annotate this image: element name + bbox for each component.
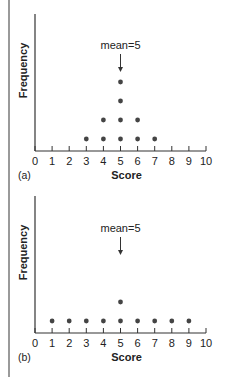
x-tick-label: 1: [49, 337, 55, 349]
data-dot: [135, 137, 140, 142]
mean-annotation: mean=5: [100, 222, 140, 234]
x-tick-label: 2: [66, 337, 72, 349]
x-axis-label: Score: [111, 169, 142, 181]
data-dot: [101, 319, 106, 324]
x-tick-label: 3: [83, 337, 89, 349]
x-tick-label: 8: [169, 337, 175, 349]
panel-label: (a): [18, 169, 31, 181]
data-dot: [152, 319, 157, 324]
data-dot: [67, 319, 72, 324]
y-axis-label: Frequency: [17, 224, 29, 281]
x-tick-label: 2: [66, 155, 72, 167]
data-dot: [84, 319, 89, 324]
data-dot: [50, 319, 55, 324]
data-dot: [169, 319, 174, 324]
x-tick-label: 7: [152, 155, 158, 167]
x-tick-label: 8: [169, 155, 175, 167]
panel-label: (b): [18, 351, 31, 363]
x-tick-label: 4: [100, 155, 106, 167]
arrow-head-icon: [118, 67, 123, 72]
data-dot: [118, 137, 123, 142]
data-dot: [187, 319, 192, 324]
x-axis-label: Score: [111, 351, 142, 363]
data-dot: [135, 319, 140, 324]
data-dot: [118, 99, 123, 104]
x-tick-label: 7: [152, 337, 158, 349]
data-dot: [118, 300, 123, 305]
data-dot: [118, 118, 123, 123]
data-dot: [152, 137, 157, 142]
data-dot: [101, 137, 106, 142]
x-tick-label: 10: [200, 155, 212, 167]
x-tick-label: 10: [200, 337, 212, 349]
x-tick-label: 1: [49, 155, 55, 167]
data-dot: [118, 80, 123, 85]
x-tick-label: 4: [100, 337, 106, 349]
x-tick-label: 6: [135, 155, 141, 167]
dot-plots: 012345678910Score(a)Frequencymean=501234…: [0, 0, 227, 377]
x-tick-label: 5: [117, 155, 123, 167]
arrow-head-icon: [118, 250, 123, 255]
x-tick-label: 9: [186, 337, 192, 349]
x-tick-label: 0: [32, 337, 38, 349]
x-tick-label: 6: [135, 337, 141, 349]
data-dot: [84, 137, 89, 142]
data-dot: [135, 118, 140, 123]
data-dot: [118, 319, 123, 324]
mean-annotation: mean=5: [100, 39, 140, 51]
x-tick-label: 0: [32, 155, 38, 167]
x-tick-label: 5: [117, 337, 123, 349]
y-axis-label: Frequency: [17, 42, 29, 99]
x-tick-label: 3: [83, 155, 89, 167]
data-dot: [101, 118, 106, 123]
x-tick-label: 9: [186, 155, 192, 167]
